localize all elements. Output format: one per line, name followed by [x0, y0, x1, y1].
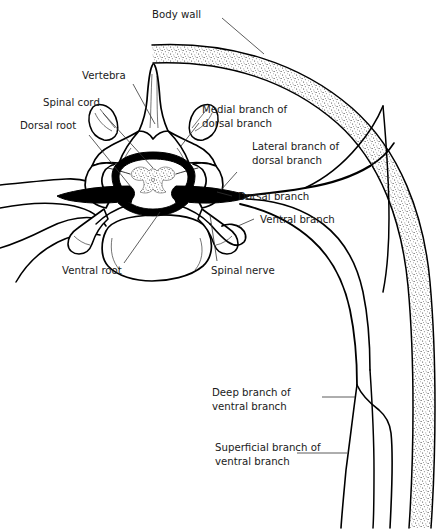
posterior-long-nerve-continuation: [370, 370, 374, 528]
spinal-cord-structure: [108, 152, 198, 216]
label-spinal-nerve: Spinal nerve: [211, 265, 275, 276]
label-ventral-root: Ventral root: [62, 265, 122, 276]
superficial-branch-of-ventral-branch: [341, 385, 357, 528]
label-dorsal-root: Dorsal root: [20, 120, 76, 131]
spinal-nerve-trunk-left: [57, 186, 135, 203]
label-lateral-branch-line2: dorsal branch: [252, 155, 322, 166]
label-medial-branch-line2: dorsal branch: [202, 118, 272, 129]
label-body-wall: Body wall: [152, 9, 201, 20]
label-superficial-branch-line2: ventral branch: [215, 456, 290, 467]
label-medial-branch-line1: Medial branch of: [202, 104, 288, 115]
label-ventral-branch: Ventral branch: [260, 214, 335, 225]
spinous-process: [139, 64, 168, 139]
anatomical-figure: Body wall Vertebra Spinal cord Dorsal ro…: [0, 0, 447, 532]
leader-body-wall: [222, 18, 264, 54]
label-lateral-branch-line1: Lateral branch of: [252, 141, 340, 152]
label-spinal-cord: Spinal cord: [43, 97, 100, 108]
leader-ventral-branch: [238, 219, 254, 226]
posterior-long-nerve: [383, 106, 389, 292]
body-wall-structure: [140, 35, 447, 532]
label-deep-branch-line2: ventral branch: [212, 401, 287, 412]
superior-articular-process-left: [89, 105, 118, 141]
spinal-cord-gray-matter: [131, 167, 175, 193]
label-dorsal-branch: Dorsal branch: [238, 191, 309, 202]
label-deep-branch-line1: Deep branch of: [212, 387, 291, 398]
label-vertebra: Vertebra: [82, 70, 126, 81]
label-superficial-branch-line1: Superficial branch of: [215, 442, 321, 453]
ventral-branch: [240, 204, 357, 385]
